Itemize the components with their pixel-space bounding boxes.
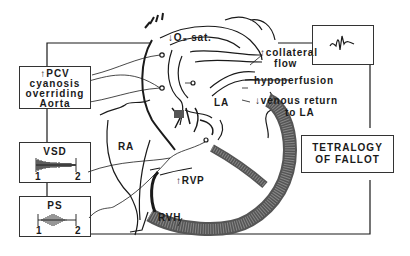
annotation-collateral-flow-line1: ↑collateral bbox=[260, 47, 318, 58]
clinical-finding-aorta: Aorta bbox=[20, 99, 90, 109]
connector-left-top bbox=[47, 43, 150, 66]
annotation-venous-return-line2: to LA bbox=[285, 107, 315, 118]
vsd-murmur-box: VSD 1 2 bbox=[19, 142, 91, 183]
title-box: TETRALOGY OF FALLOT bbox=[301, 135, 394, 173]
ps-label: PS bbox=[20, 200, 90, 212]
ps-murmur-box: PS 1 2 bbox=[19, 196, 91, 237]
vsd-heart-sound-2: 2 bbox=[75, 171, 81, 182]
vsd-heart-sound-1: 1 bbox=[35, 171, 41, 182]
chamber-label-ra: RA bbox=[118, 141, 134, 152]
chamber-label-rvp: ↑RVP bbox=[176, 175, 205, 186]
title-line-2: OF FALLOT bbox=[302, 154, 393, 166]
clinical-findings-box: ↑PCV cyanosis overriding Aorta bbox=[19, 66, 91, 109]
chamber-label-la: LA bbox=[214, 97, 229, 108]
ps-heart-sound-2: 2 bbox=[75, 225, 81, 236]
annotation-o2-saturation: ↓O₂ sat. bbox=[168, 32, 212, 43]
annotation-hypoperfusion: hypoperfusion bbox=[254, 75, 334, 86]
ps-heart-sound-1: 1 bbox=[36, 225, 42, 236]
ecg-box bbox=[312, 25, 374, 65]
vsd-label: VSD bbox=[20, 146, 90, 158]
title-line-1: TETRALOGY bbox=[302, 142, 393, 154]
chamber-label-rvh: RVH bbox=[158, 212, 181, 223]
annotation-venous-return-line1: ↓venous return bbox=[255, 95, 338, 106]
annotation-collateral-flow-line2: flow bbox=[274, 58, 297, 69]
